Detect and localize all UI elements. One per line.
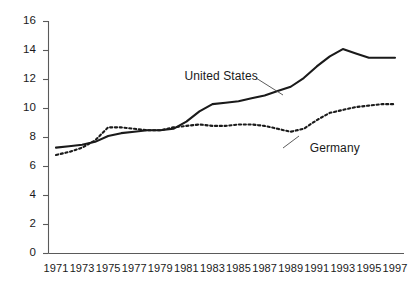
y-tick-label: 4 — [14, 188, 36, 200]
annotation-leader-lines — [256, 78, 299, 148]
leader-line-united-states — [256, 78, 283, 95]
y-tick-label: 6 — [14, 159, 36, 171]
y-tick-label: 0 — [14, 246, 36, 258]
y-tick-label: 2 — [14, 217, 36, 229]
axes-group — [49, 21, 405, 254]
series-label-germany: Germany — [310, 141, 360, 155]
y-tick-label: 12 — [14, 72, 36, 84]
leader-line-germany — [283, 136, 299, 148]
y-tick-marks — [43, 22, 49, 254]
y-tick-label: 8 — [14, 130, 36, 142]
y-tick-label: 10 — [14, 101, 36, 113]
data-series-group — [56, 49, 395, 155]
series-line-united-states — [56, 49, 395, 148]
y-tick-label: 14 — [14, 43, 36, 55]
x-tick-label: 1997 — [375, 262, 415, 274]
line-chart-figure: 0246810121416 19711973197519771979198119… — [0, 0, 420, 291]
series-label-united-states: United States — [184, 69, 257, 83]
y-tick-label: 16 — [14, 14, 36, 26]
